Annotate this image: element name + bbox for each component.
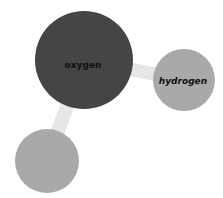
molecule-graph: oxygen hydrogen: [0, 0, 223, 198]
node-label-hydrogen: hydrogen: [159, 76, 207, 86]
graph-canvas: oxygen hydrogen: [0, 0, 223, 198]
node-label-oxygen: oxygen: [65, 60, 102, 70]
node-unlabeled[interactable]: [15, 129, 79, 193]
